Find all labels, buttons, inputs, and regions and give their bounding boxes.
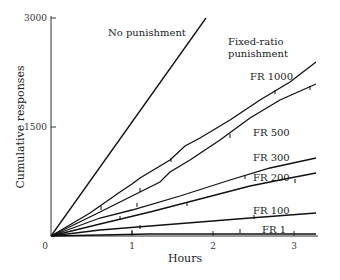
label-fr500: FR 500 xyxy=(253,127,290,138)
label-fr-title-1: Fixed-ratio xyxy=(228,36,283,47)
label-fr200: FR 200 xyxy=(253,172,290,183)
x-tick-label-2: 2 xyxy=(210,241,216,251)
y-tick-label-3000: 3000 xyxy=(24,13,47,23)
label-fr100: FR 100 xyxy=(253,205,290,216)
label-fr1000: FR 1000 xyxy=(250,71,293,82)
label-no-punishment: No punishment xyxy=(108,27,186,38)
x-axis-title: Hours xyxy=(168,252,203,265)
y-tick-label-1500: 1500 xyxy=(24,122,47,132)
label-fr1: FR 1 xyxy=(262,224,286,235)
x-tick-label-3: 3 xyxy=(291,241,297,251)
x-tick-label-0: 0 xyxy=(42,241,48,251)
y-axis-title: Cumulative responses xyxy=(14,65,27,189)
cumulative-response-chart: 3000 1500 0 1 2 3 Hours Cumulative respo… xyxy=(0,0,340,280)
x-tick-label-1: 1 xyxy=(129,241,135,251)
label-fr300: FR 300 xyxy=(253,152,290,163)
label-fr-title-2: punishment xyxy=(228,48,288,59)
